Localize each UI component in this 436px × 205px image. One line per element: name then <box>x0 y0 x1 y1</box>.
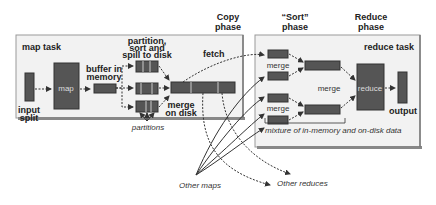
buffer-in-memory-box <box>94 84 116 93</box>
svg-text:merge: merge <box>267 61 290 70</box>
mapreduce-shuffle-diagram: Copy phase “Sort” phase Reduce phase map… <box>0 0 436 205</box>
input-split-box <box>25 73 34 101</box>
fetched-segment-2 <box>268 72 288 80</box>
spill-file-3 <box>136 101 158 112</box>
fetched-segment-1 <box>268 50 288 58</box>
merged-segment-top <box>305 61 340 70</box>
svg-text:phase: phase <box>358 22 384 32</box>
merged-segment-bottom <box>305 105 340 114</box>
svg-text:map: map <box>58 84 74 93</box>
svg-text:on disk: on disk <box>165 108 197 118</box>
fetch-label: fetch <box>203 49 225 59</box>
spill-file-1 <box>136 61 158 72</box>
svg-text:merge: merge <box>318 84 341 93</box>
partitions-label: partitions <box>131 123 164 132</box>
reduce-task-title: reduce task <box>364 42 415 52</box>
svg-text:split: split <box>20 113 39 123</box>
sort-phase-label: “Sort” <box>282 12 309 22</box>
other-reduces-label: Other reduces <box>277 179 328 188</box>
other-maps-label: Other maps <box>179 181 221 190</box>
merged-map-output <box>171 82 235 93</box>
output-box <box>398 72 407 103</box>
reduce-phase-label: Reduce <box>355 12 388 22</box>
svg-text:reduce: reduce <box>358 84 383 93</box>
fetched-segment-3 <box>268 94 288 102</box>
svg-text:memory: memory <box>86 72 121 82</box>
spill-file-2 <box>136 83 158 94</box>
map-task-title: map task <box>22 42 62 52</box>
mixture-label: mixture of in-memory and on-disk data <box>265 126 402 135</box>
svg-text:phase: phase <box>215 22 241 32</box>
svg-text:output: output <box>389 106 417 116</box>
svg-text:merge: merge <box>267 104 290 113</box>
svg-text:spill to disk: spill to disk <box>122 50 173 60</box>
copy-phase-label: Copy <box>217 12 240 22</box>
svg-text:phase: phase <box>282 22 308 32</box>
